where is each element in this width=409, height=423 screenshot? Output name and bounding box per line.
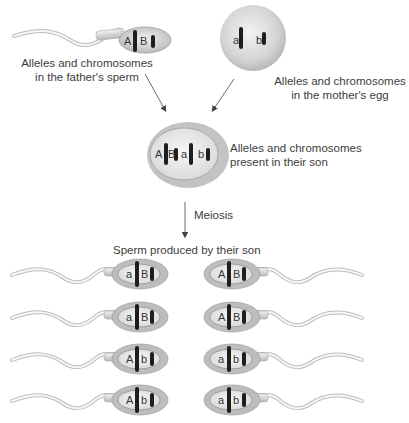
chromosome-long [227,387,231,413]
allele-label: A [124,35,132,47]
arrow-mother-to-son [213,79,234,110]
allele-label: a [218,353,225,365]
offspring-sperm: ab [204,385,362,415]
allele-label: B [233,268,240,280]
son-label: Alleles and chromosomes present in their… [230,141,409,169]
chromosome-long [133,30,137,52]
mother-label: Alleles and chromosomes in the mother's … [270,74,409,102]
offspring-sperm: AB [204,302,362,332]
offspring-sperm: AB [204,259,362,289]
allele-label: B [141,268,148,280]
offspring-sperm: Ab [12,385,168,415]
allele-label: A [218,268,226,280]
allele-label: b [233,353,239,365]
offspring-sperm-group: aBaBAbAbABABabab [12,259,362,415]
father-sperm: A B [14,27,171,53]
chromosome-long [135,261,139,287]
chromosome-short [150,352,154,366]
allele-label: b [198,148,204,160]
offspring-sperm: aB [12,259,168,289]
offspring-sperm: aB [12,302,168,332]
allele-label: A [126,353,134,365]
chromosome-short [150,267,154,281]
offspring-sperm: Ab [12,344,168,374]
chromosome-short [242,310,246,324]
allele-label: b [141,394,147,406]
chromosome-long [227,346,231,372]
father-label: Alleles and chromosomes in the father's … [2,56,172,84]
mother-egg: a b [220,5,286,71]
son-label-line1: Alleles and chromosomes [230,141,409,155]
chromosome-short [150,310,154,324]
allele-label: a [181,148,188,160]
allele-label: A [126,394,134,406]
chromosome-short [242,393,246,407]
father-label-line2: in the father's sperm [2,70,172,84]
mother-label-line2: in the mother's egg [270,88,409,102]
allele-label: a [218,394,225,406]
chromosome-long [135,387,139,413]
chromosome-long [227,304,231,330]
chromosome-short [242,352,246,366]
chromosome-short [150,393,154,407]
offspring-title: Sperm produced by their son [113,243,261,257]
father-label-line1: Alleles and chromosomes [2,56,172,70]
chromosome-long [135,346,139,372]
chromosome-short [151,35,155,48]
chromosome-long [227,261,231,287]
chromosome-short [262,32,266,45]
chromosome-long [239,27,243,49]
chromosome-long [135,304,139,330]
offspring-sperm: ab [204,344,362,374]
mother-label-line1: Alleles and chromosomes [270,74,409,88]
allele-label: a [126,268,133,280]
allele-label: B [140,35,147,47]
chromosome-short [206,148,210,161]
allele-label: a [233,34,240,46]
chromosome-short [242,267,246,281]
chromosome-long [189,143,193,165]
sperm-neck [96,29,123,41]
son-label-line2: present in their son [230,155,409,169]
allele-label: A [218,311,226,323]
allele-label: a [126,311,133,323]
meiosis-label: Meiosis [194,208,233,222]
allele-label: b [141,353,147,365]
son-cell: A B a b [147,122,229,188]
allele-label: b [233,394,239,406]
allele-label: b [256,34,262,46]
allele-label: B [141,311,148,323]
allele-label: A [155,148,163,160]
allele-label: B [233,311,240,323]
allele-label: B [168,148,175,160]
